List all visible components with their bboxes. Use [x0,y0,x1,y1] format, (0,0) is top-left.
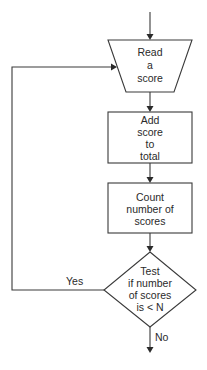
count-line-1: number of [126,203,173,215]
read-line-0: Read [137,46,162,58]
count-scores-node: Count number of scores [108,183,192,233]
test-line-3: is < N [136,301,163,313]
arrow-read-to-add [147,92,154,112]
add-line-2: to [146,138,155,150]
read-line-2: score [137,72,163,84]
flowchart-canvas: Read a score Add score to total Count nu… [0,0,207,370]
yes-loop-arrow: Yes [12,64,117,291]
yes-label: Yes [66,275,83,287]
entry-arrow [147,12,154,40]
add-score-node: Add score to total [108,112,192,163]
test-line-1: if number [128,277,172,289]
read-line-1: a [147,59,153,71]
no-label: No [155,331,169,343]
test-decision-node: Test if number of scores is < N [104,252,196,327]
test-line-2: of scores [129,289,172,301]
add-line-3: total [140,150,160,162]
arrow-count-to-test [147,233,154,252]
add-line-0: Add [141,114,160,126]
no-exit-arrow: No [147,327,169,353]
count-line-0: Count [136,191,164,203]
read-score-node: Read a score [108,40,192,92]
test-line-0: Test [140,265,159,277]
arrow-add-to-count [147,163,154,183]
count-line-2: scores [135,215,166,227]
add-line-1: score [137,126,163,138]
